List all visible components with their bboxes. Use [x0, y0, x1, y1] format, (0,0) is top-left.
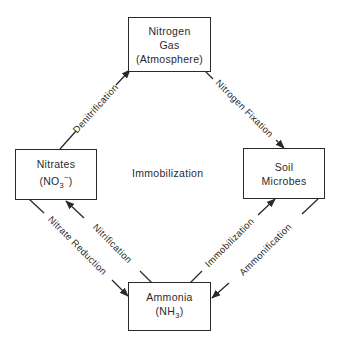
arrow-head-icon [276, 140, 284, 148]
center-label-immobilization: Immobilization [132, 167, 203, 179]
node-ammonia-line1: Ammonia [146, 290, 192, 304]
formula-main: (NO [39, 174, 59, 186]
edge-immobilization: Immobilization [190, 199, 275, 283]
arrow-head-icon [66, 201, 84, 218]
node-ammonia-formula: (NH3) [156, 304, 184, 323]
node-soil-microbes: Soil Microbes [243, 148, 325, 199]
edge-denitrification: Denitrification [60, 70, 130, 149]
node-nitrogen-gas-line1: Nitrogen [148, 24, 190, 38]
edge-label-nitrogen-fixation: Nitrogen Fixation [214, 77, 276, 139]
arrow-head-icon [116, 70, 130, 85]
node-nitrates: Nitrates (NO3−) [15, 149, 97, 200]
arrow-head-icon [212, 283, 229, 298]
edge-label-denitrification: Denitrification [70, 82, 120, 135]
arrow-head-icon [112, 280, 128, 296]
formula-end: ) [180, 305, 184, 317]
arrow-head-icon [258, 199, 275, 215]
node-nitrates-formula: (NO3−) [39, 171, 72, 193]
node-nitrogen-gas: Nitrogen Gas (Atmosphere) [128, 17, 211, 72]
node-ammonia: Ammonia (NH3) [128, 282, 211, 331]
node-nitrogen-gas-line3: (Atmosphere) [136, 52, 203, 66]
formula-main: (NH [156, 305, 176, 317]
formula-end: ) [69, 174, 73, 186]
node-soil-microbes-line2: Microbes [262, 174, 307, 188]
node-nitrogen-gas-line2: Gas [159, 38, 179, 52]
node-nitrates-line1: Nitrates [37, 157, 76, 171]
node-soil-microbes-line1: Soil [275, 160, 294, 174]
edge-nitrogen-fixation: Nitrogen Fixation [205, 71, 284, 148]
